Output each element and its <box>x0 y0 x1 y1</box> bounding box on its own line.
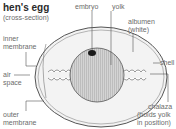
label-outer-membrane-1: outer <box>3 111 19 119</box>
label-chalaza-2: (holds yolk <box>137 111 170 119</box>
embryo <box>88 50 96 56</box>
label-embryo: embryo <box>75 3 98 11</box>
label-chalaza-3: in position) <box>137 119 171 127</box>
label-air-1: air <box>3 71 11 79</box>
diagram-title: hen's egg <box>3 2 49 13</box>
label-inner-membrane-2: membrane <box>3 43 36 51</box>
label-shell: shell <box>160 59 174 67</box>
label-albumen-white: (white) <box>128 26 149 34</box>
label-yolk: yolk <box>112 3 124 11</box>
label-inner-membrane-1: inner <box>3 35 19 43</box>
yolk <box>70 48 124 102</box>
label-albumen: albumen <box>128 18 155 26</box>
label-outer-membrane-2: membrane <box>3 119 36 127</box>
label-air-2: space <box>3 79 22 87</box>
diagram-subtitle: (cross-section) <box>3 14 49 21</box>
label-chalaza-1: chalaza <box>148 103 172 111</box>
